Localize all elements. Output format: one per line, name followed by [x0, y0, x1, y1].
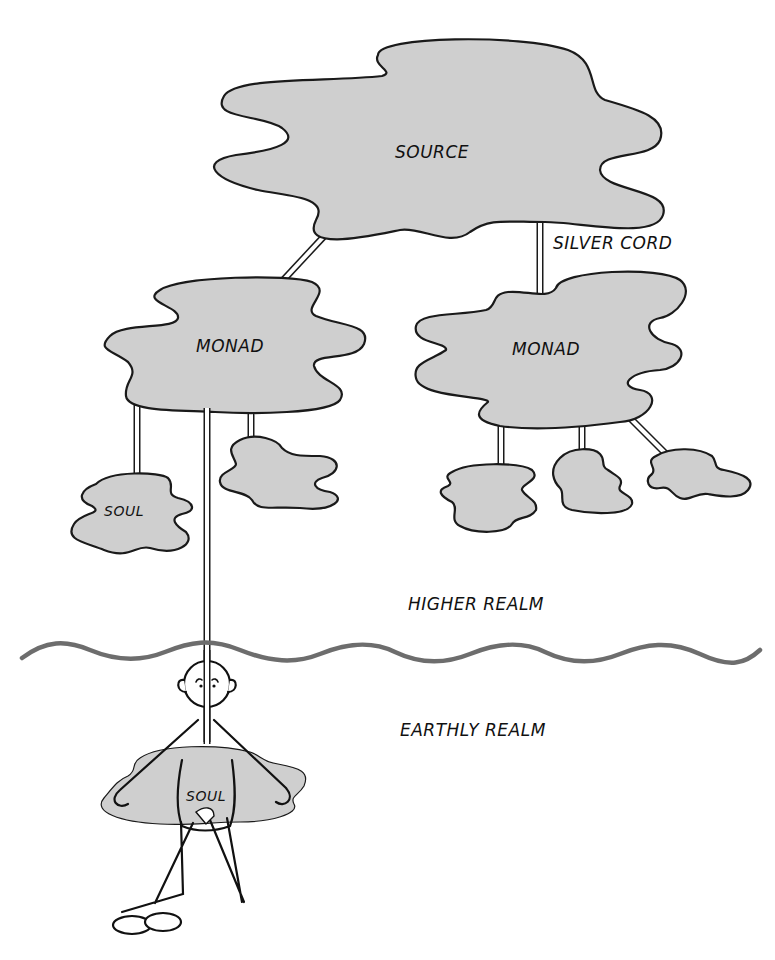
source-cloud: SOURCE	[214, 39, 664, 239]
left-monad-cloud: MONAD	[105, 277, 366, 413]
higher-realm-label: HIGHER REALM	[408, 594, 544, 614]
source-label: SOURCE	[395, 142, 469, 162]
right-monad-cloud: MONAD	[415, 272, 685, 429]
small-soul-cloud-4	[648, 449, 751, 499]
earthly-realm-label: EARTHLY REALM	[400, 720, 546, 740]
right-foot	[145, 913, 181, 931]
small-soul-cloud-2	[441, 464, 536, 532]
human-figure: SOUL	[101, 650, 306, 934]
soul-monad-diagram: SOURCE MONAD MONAD SOUL SILVER CORD HIGH…	[0, 0, 775, 960]
embodied-soul-label: SOUL	[186, 788, 226, 804]
left-soul-label: SOUL	[104, 503, 144, 519]
silver-cord-label: SILVER CORD	[553, 233, 672, 253]
left-monad-label: MONAD	[196, 336, 264, 356]
legs	[122, 818, 244, 912]
left-eye	[199, 684, 202, 687]
realm-divider-wave	[22, 643, 760, 663]
right-monad-label: MONAD	[512, 339, 580, 359]
small-soul-cloud-1	[220, 437, 338, 509]
left-soul-cloud: SOUL	[71, 473, 192, 553]
right-eye	[212, 684, 215, 687]
small-soul-cloud-3	[553, 449, 632, 513]
